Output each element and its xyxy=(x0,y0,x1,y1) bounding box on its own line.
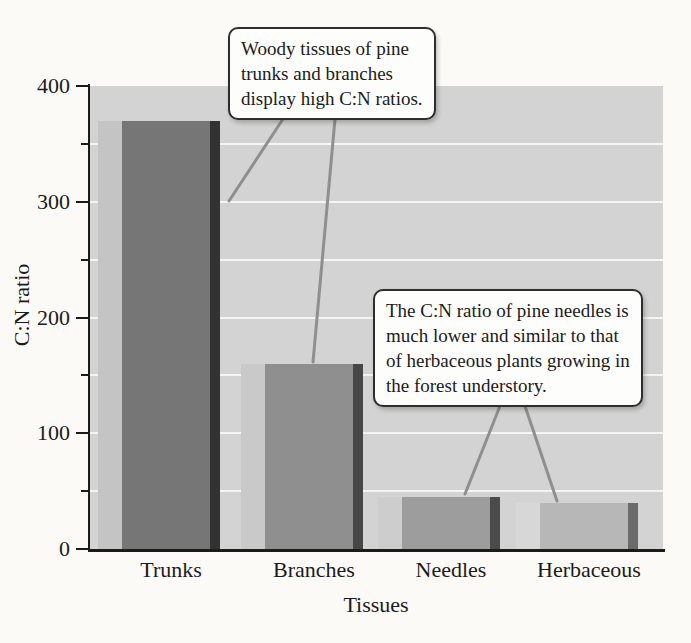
y-major-tick-0 xyxy=(76,548,90,550)
y-tick-label-300: 300 xyxy=(20,189,70,215)
annotation-text-line: Woody tissues of pine xyxy=(241,36,423,61)
annotation-box-needles-herbaceous: The C:N ratio of pine needles is much lo… xyxy=(373,289,643,407)
cn-ratio-bar-chart: C:N ratio Tissues Woody tissues of pine … xyxy=(0,0,691,643)
y-minor-tick-250 xyxy=(81,259,90,261)
y-major-tick-100 xyxy=(76,432,90,434)
x-category-label-needles: Needles xyxy=(371,557,531,583)
x-category-label-herbaceous: Herbaceous xyxy=(509,557,669,583)
annotation-text-line: display high C:N ratios. xyxy=(241,86,423,111)
y-tick-label-200: 200 xyxy=(20,305,70,331)
connector-callout2-to-needles xyxy=(465,406,500,494)
y-tick-label-0: 0 xyxy=(20,536,70,562)
x-category-label-trunks: Trunks xyxy=(91,557,251,583)
x-category-label-branches: Branches xyxy=(234,557,394,583)
x-axis-line xyxy=(88,549,665,552)
y-minor-tick-350 xyxy=(81,143,90,145)
annotation-text-line: of herbaceous plants growing in xyxy=(386,348,630,373)
y-tick-label-400: 400 xyxy=(20,73,70,99)
connector-callout2-to-herbaceous xyxy=(525,406,557,501)
connector-callout1-to-trunks xyxy=(229,119,283,201)
annotation-text-line: trunks and branches xyxy=(241,61,423,86)
annotation-text-line: The C:N ratio of pine needles is xyxy=(386,298,630,323)
x-axis-title: Tissues xyxy=(296,592,456,618)
y-major-tick-200 xyxy=(76,317,90,319)
annotation-text-line: much lower and similar to that xyxy=(386,323,630,348)
y-tick-label-100: 100 xyxy=(20,420,70,446)
annotation-text-line: the forest understory. xyxy=(386,373,630,398)
y-major-tick-400 xyxy=(76,85,90,87)
connector-callout1-to-branches xyxy=(313,119,335,362)
y-major-tick-300 xyxy=(76,201,90,203)
y-minor-tick-50 xyxy=(81,490,90,492)
annotation-box-woody-tissues: Woody tissues of pine trunks and branche… xyxy=(228,27,436,120)
y-minor-tick-150 xyxy=(81,374,90,376)
